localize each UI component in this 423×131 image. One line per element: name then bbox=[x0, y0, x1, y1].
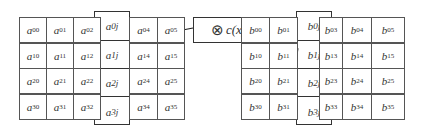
matrix-cell: b25 bbox=[371, 68, 405, 94]
matrix-cell: b04 bbox=[342, 17, 372, 43]
matrix-cell: b21 bbox=[269, 68, 298, 94]
matrix-cell: a01 bbox=[46, 17, 74, 43]
matrix-cell: b11 bbox=[269, 43, 298, 69]
matrix-cell: a22 bbox=[73, 68, 101, 94]
matrix-cell: b15 bbox=[371, 43, 405, 69]
matrix-cell: a05 bbox=[157, 17, 185, 43]
matrix-cell: a12 bbox=[73, 43, 101, 69]
matrix-cell: a34 bbox=[129, 94, 158, 120]
matrix-cell: a00 bbox=[19, 17, 47, 43]
matrix-cell: b24 bbox=[342, 68, 372, 94]
matrix-cell: b33 bbox=[319, 94, 343, 120]
matrix-cell: a10 bbox=[19, 43, 47, 69]
matrix-cell: a31 bbox=[46, 94, 74, 120]
matrix-cell: b23 bbox=[319, 68, 343, 94]
matrix-cell: b30 bbox=[241, 94, 270, 120]
matrix-cell: a15 bbox=[157, 43, 185, 69]
matrix-cell: b35 bbox=[371, 94, 405, 120]
matrix-cell: a25 bbox=[157, 68, 185, 94]
matrix-cell: a11 bbox=[46, 43, 74, 69]
matrix-cell: a14 bbox=[129, 43, 158, 69]
matrix-cell: b10 bbox=[241, 43, 270, 69]
matrix-cell: b03 bbox=[319, 17, 343, 43]
matrix-cell: b13 bbox=[319, 43, 343, 69]
matrix-cell: b31 bbox=[269, 94, 298, 120]
matrix-cell: b05 bbox=[371, 17, 405, 43]
matrix-cell: b14 bbox=[342, 43, 372, 69]
matrix-cell: b20 bbox=[241, 68, 270, 94]
matrix-cell: a32 bbox=[73, 94, 101, 120]
matrix-cell: b01 bbox=[269, 17, 298, 43]
matrix-cell: b00 bbox=[241, 17, 270, 43]
matrix-cell: a30 bbox=[19, 94, 47, 120]
matrix-cell: a21 bbox=[46, 68, 74, 94]
matrix-cell: a04 bbox=[129, 17, 158, 43]
matrix-cell: a24 bbox=[129, 68, 158, 94]
matrix-cell: b34 bbox=[342, 94, 372, 120]
matrix-cell: a20 bbox=[19, 68, 47, 94]
matrix-cell: a02 bbox=[73, 17, 101, 43]
matrix-cell: a35 bbox=[157, 94, 185, 120]
